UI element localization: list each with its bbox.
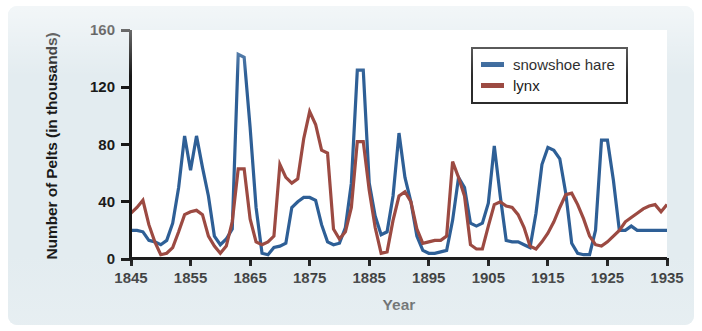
x-tick-label: 1915 xyxy=(516,269,580,286)
y-tick-mark xyxy=(121,29,130,32)
x-tick-mark xyxy=(249,258,252,266)
legend-label-lynx: lynx xyxy=(513,77,540,94)
x-tick-mark xyxy=(546,258,549,266)
y-tick-mark xyxy=(121,86,130,89)
x-tick-label: 1895 xyxy=(397,269,461,286)
y-tick-label: 0 xyxy=(71,250,115,267)
legend-label-snowshoe-hare: snowshoe hare xyxy=(513,56,615,73)
y-tick-label: 80 xyxy=(71,136,115,153)
x-tick-label: 1875 xyxy=(278,269,342,286)
x-axis-label: Year xyxy=(131,296,667,314)
chart-legend: snowshoe hare lynx xyxy=(471,47,628,104)
legend-swatch-snowshoe-hare xyxy=(481,62,504,67)
x-tick-label: 1865 xyxy=(218,269,282,286)
x-tick-mark xyxy=(368,258,371,266)
x-tick-mark xyxy=(606,258,609,266)
x-tick-mark xyxy=(308,258,311,266)
y-tick-label: 40 xyxy=(71,193,115,210)
legend-item-lynx: lynx xyxy=(481,75,615,96)
x-tick-label: 1845 xyxy=(99,269,163,286)
legend-item-snowshoe-hare: snowshoe hare xyxy=(481,54,615,75)
x-tick-label: 1925 xyxy=(575,269,639,286)
y-tick-label: 120 xyxy=(71,78,115,95)
y-tick-mark xyxy=(121,200,130,203)
x-tick-label: 1855 xyxy=(159,269,223,286)
y-tick-mark xyxy=(121,143,130,146)
x-tick-mark xyxy=(427,258,430,266)
chart-figure: Number of Pelts (in thousands) 040801201… xyxy=(0,0,702,331)
x-tick-label: 1905 xyxy=(456,269,520,286)
y-axis-label: Number of Pelts (in thousands) xyxy=(43,31,61,261)
y-tick-label: 160 xyxy=(71,21,115,38)
x-tick-label: 1885 xyxy=(337,269,401,286)
x-tick-label: 1935 xyxy=(635,269,699,286)
x-tick-mark xyxy=(130,258,133,266)
x-tick-mark xyxy=(666,258,669,266)
x-tick-mark xyxy=(189,258,192,266)
x-axis-line xyxy=(129,257,667,260)
legend-swatch-lynx xyxy=(481,83,504,88)
x-tick-mark xyxy=(487,258,490,266)
